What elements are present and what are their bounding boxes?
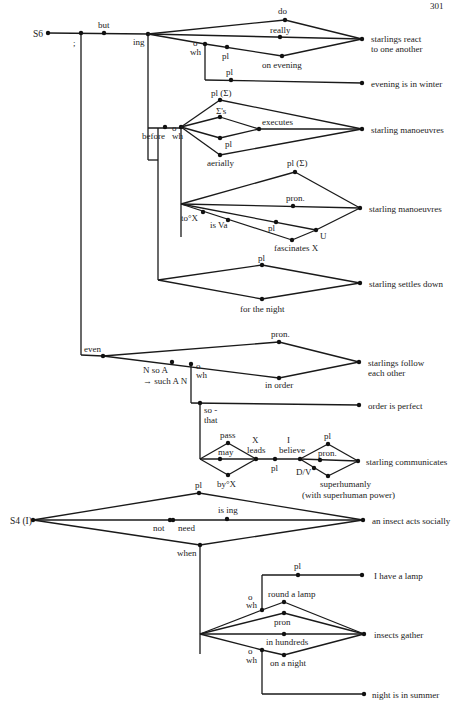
output-react-line2: to one another — [371, 44, 422, 54]
for-night-label: for the night — [240, 304, 285, 314]
output-react-line1: starlings react — [371, 34, 422, 44]
pl-label: pl — [226, 67, 234, 77]
even-label: even — [84, 344, 101, 354]
is-va-label: is Va — [210, 220, 228, 230]
communicates-group — [200, 403, 360, 478]
output-order-perfect: order is perfect — [368, 401, 423, 411]
pron-label: pron. — [286, 193, 305, 203]
output-follow-line2: each other — [368, 368, 405, 378]
pl-label: pl — [324, 431, 332, 441]
react-group — [148, 18, 364, 85]
wh-label: wh — [190, 47, 201, 57]
when-label: when — [177, 548, 197, 558]
u-label: U — [320, 231, 327, 241]
before-label: before — [142, 131, 165, 141]
output-manoeuvres-1: starling manoeuvres — [371, 125, 444, 135]
output-evening-winter: evening is in winter — [371, 79, 442, 89]
dv-label: D/V — [296, 467, 312, 477]
superhumanly-label: superhumanly — [320, 479, 371, 489]
pl-label: pl — [195, 480, 203, 490]
wh-label: wh — [246, 600, 257, 610]
transformation-diagram: 301 S6 ; but ing do really o wh pl — [0, 0, 456, 713]
output-night-summer: night is in summer — [372, 690, 439, 700]
pl-label: pl — [271, 463, 279, 473]
pron-label: pron. — [318, 448, 337, 458]
s4-label: S4 (I) — [10, 516, 32, 527]
semicolon-label: ; — [73, 38, 76, 48]
output-lamp: I have a lamp — [374, 571, 423, 581]
wh-label: wh — [172, 131, 183, 141]
pron-label: pron — [274, 617, 291, 627]
in-order-label: in order — [265, 380, 293, 390]
really-label: really — [270, 25, 291, 35]
s4-group — [31, 491, 365, 654]
output-follow-line1: starlings follow — [368, 358, 425, 368]
executes-label: executes — [262, 117, 293, 127]
sigma-s-label: Σ's — [216, 106, 227, 116]
aerially-label: aerially — [207, 158, 234, 168]
pl-sigma-label: pl (Σ) — [287, 158, 307, 168]
leads-label: leads — [247, 445, 266, 455]
so-that-label-1: so - — [204, 405, 217, 415]
on-evening-label: on evening — [262, 60, 302, 70]
need-label: need — [178, 523, 195, 533]
pass-label: pass — [220, 430, 236, 440]
pl-sigma-label: pl (Σ) — [211, 88, 231, 98]
to-x-label: to°X — [181, 213, 199, 223]
wh-label: wh — [196, 370, 207, 380]
round-lamp-label: round a lamp — [268, 589, 316, 599]
s6-trunk — [46, 31, 158, 356]
follow-group — [101, 340, 361, 407]
output-insect-social: an insect acts socially — [372, 516, 451, 526]
is-ing-label: is ing — [218, 505, 238, 515]
output-gather: insects gather — [374, 630, 423, 640]
settles-group — [158, 263, 362, 301]
n-so-a-label: N so A — [143, 365, 169, 375]
but-label: but — [98, 20, 110, 30]
wh-label: wh — [246, 655, 257, 665]
output-settles: starling settles down — [369, 279, 443, 289]
s6-label: S6 — [33, 29, 43, 39]
pl-label: pl — [258, 253, 266, 263]
ing-label: ing — [133, 37, 145, 47]
i-label: I — [287, 435, 290, 445]
may-label: may — [218, 447, 234, 457]
such-an-label: → such A N — [143, 376, 188, 386]
output-communicates: starling communicates — [366, 457, 448, 467]
pl-label: pl — [268, 223, 276, 233]
fascinates-label: fascinates X — [274, 243, 319, 253]
not-label: not — [153, 523, 165, 533]
page-number: 301 — [430, 1, 444, 11]
in-hundreds-label: in hundreds — [266, 637, 309, 647]
pron-label: pron. — [271, 329, 290, 339]
with-power-label: (with superhuman power) — [302, 490, 395, 500]
believe-label: believe — [279, 445, 305, 455]
so-that-label-2: that — [204, 415, 218, 425]
pl-label: pl — [294, 561, 302, 571]
manoeuvres-group — [148, 98, 364, 280]
on-night-label: on a night — [270, 658, 306, 668]
do-label: do — [278, 6, 288, 16]
pl-label: pl — [225, 139, 233, 149]
x-label: X — [252, 435, 259, 445]
pl-label: pl — [222, 51, 230, 61]
output-manoeuvres-2: starling manoeuvres — [369, 204, 442, 214]
by-x-label: by°X — [217, 479, 237, 489]
